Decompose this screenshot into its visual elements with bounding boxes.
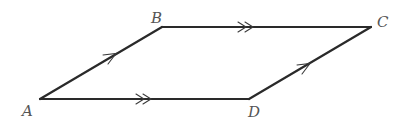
vertex-label-b: B	[150, 9, 162, 27]
vertex-label-c: C	[377, 13, 389, 31]
parallelogram-diagram: A B C D	[0, 0, 407, 127]
vertex-label-d: D	[247, 103, 260, 121]
edge-ab	[40, 27, 162, 99]
vertex-label-a: A	[20, 102, 33, 120]
